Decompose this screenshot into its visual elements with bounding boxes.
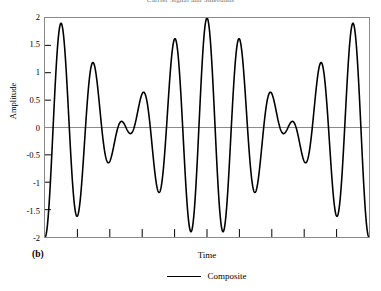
y-axis-title: Amplitude [8,66,18,136]
x-axis-title: Time [44,250,370,260]
y-tick-label: -2 [16,234,40,242]
y-axis-tick-labels: 2 1.5 1 0.5 0 -0.5 -1 -1.5 -2 [14,0,40,291]
plot-area [44,17,370,238]
legend-item-label: Composite [207,271,246,281]
chart-title: Carrier Signal and Sidebands [0,0,381,4]
y-tick-label: 0.5 [16,96,40,104]
chart-legend: Composite [44,271,370,281]
y-tick-label: 0 [16,124,40,132]
y-tick-label: -1 [16,179,40,187]
x-axis-ticks [77,229,336,237]
y-tick-label: -0.5 [16,151,40,159]
subfigure-label: (b) [32,249,44,259]
waveform-plot [45,18,369,237]
y-tick-label: 1.5 [16,40,40,48]
y-tick-label: -1.5 [16,207,40,215]
y-tick-label: 1 [16,68,40,76]
y-tick-label: 2 [16,13,40,21]
legend-line-swatch [167,276,201,277]
